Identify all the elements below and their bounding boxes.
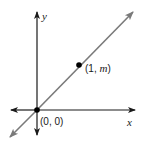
x-axis-label: x [126,116,132,128]
point-1-m-var: m [99,62,107,74]
slope-line [10,12,133,137]
point-1-m-suffix: ) [107,63,110,74]
point-1-m [76,62,82,68]
origin-label: (0, 0) [40,116,63,127]
point-1-m-prefix: (1, [85,63,99,74]
point-1-m-label: (1, m) [85,62,111,74]
coordinate-diagram: y x (0, 0) (1, m) [0,0,143,145]
origin-point [34,107,40,113]
y-axis-label: y [41,10,47,22]
